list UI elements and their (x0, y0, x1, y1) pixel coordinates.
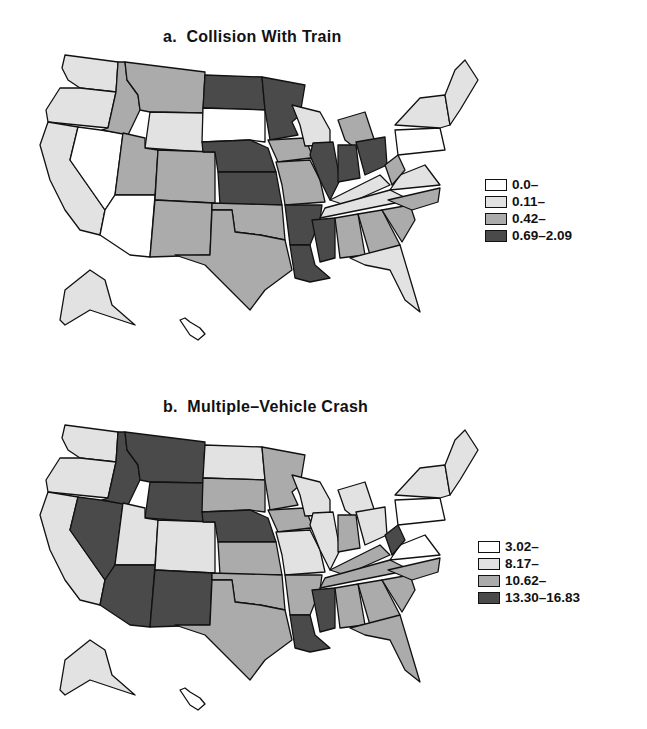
state-or (46, 88, 116, 128)
state-nd (203, 445, 265, 480)
legend-label: 3.02– (505, 539, 539, 554)
state-pa (395, 498, 445, 525)
legend-swatch (485, 230, 507, 242)
state-hi (180, 318, 205, 340)
state-nm (150, 570, 212, 627)
state-in (338, 515, 360, 552)
state-ne_reg (445, 430, 478, 495)
state-hi (180, 688, 205, 710)
map-title: a. Collision With Train (163, 28, 342, 46)
state-wy (145, 112, 203, 152)
state-ak (60, 640, 135, 695)
state-sd (202, 478, 265, 512)
legend-entry: 0.42– (485, 210, 572, 227)
legend-swatch (485, 213, 507, 225)
panel-collision-with-train: a. Collision With Train 0.0–0.11–0.42–0.… (0, 0, 647, 370)
map-legend: 3.02–8.17–10.62–13.30–16.83 (478, 538, 580, 606)
state-nd (203, 75, 265, 110)
state-co (155, 150, 215, 203)
map-legend: 0.0–0.11–0.42–0.69–2.09 (485, 176, 572, 244)
state-sd (202, 108, 265, 142)
state-ny (395, 95, 450, 128)
state-pa (395, 128, 445, 155)
state-ms (312, 218, 335, 262)
legend-label: 0.69–2.09 (512, 228, 572, 243)
legend-label: 0.0– (512, 177, 538, 192)
legend-entry: 0.0– (485, 176, 572, 193)
legend-entry: 13.30–16.83 (478, 589, 580, 606)
state-wa (62, 425, 118, 462)
map-title: b. Multiple–Vehicle Crash (163, 398, 368, 416)
legend-swatch (478, 592, 500, 604)
legend-label: 0.11– (512, 194, 545, 209)
state-oh (356, 507, 387, 545)
state-ms (312, 588, 335, 632)
legend-label: 8.17– (505, 556, 539, 571)
state-fl (350, 245, 420, 312)
legend-label: 10.62– (505, 573, 546, 588)
state-co (155, 520, 215, 573)
legend-entry: 0.11– (485, 193, 572, 210)
legend-entry: 3.02– (478, 538, 580, 555)
state-oh (356, 137, 387, 175)
state-nc (388, 188, 440, 210)
legend-swatch (478, 575, 500, 587)
legend-entry: 10.62– (478, 572, 580, 589)
legend-swatch (478, 541, 500, 553)
state-wa (62, 55, 118, 92)
state-ks (218, 172, 282, 205)
legend-swatch (485, 179, 507, 191)
legend-swatch (478, 558, 500, 570)
state-nm (150, 200, 212, 257)
state-az (100, 565, 155, 627)
us-choropleth-map (20, 420, 490, 720)
state-ks (218, 542, 282, 575)
us-choropleth-map (20, 50, 490, 350)
state-az (100, 195, 155, 257)
legend-label: 0.42– (512, 211, 546, 226)
state-nc (388, 558, 440, 580)
legend-entry: 0.69–2.09 (485, 227, 572, 244)
legend-entry: 8.17– (478, 555, 580, 572)
panel-multiple-vehicle-crash: b. Multiple–Vehicle Crash 3.02–8.17–10.6… (0, 370, 647, 729)
state-fl (350, 615, 420, 682)
state-ak (60, 270, 135, 325)
state-in (338, 145, 360, 182)
state-or (46, 458, 116, 498)
state-ne_reg (445, 60, 478, 125)
legend-swatch (485, 196, 507, 208)
state-ny (395, 465, 450, 498)
state-wy (145, 482, 203, 522)
legend-label: 13.30–16.83 (505, 590, 580, 605)
